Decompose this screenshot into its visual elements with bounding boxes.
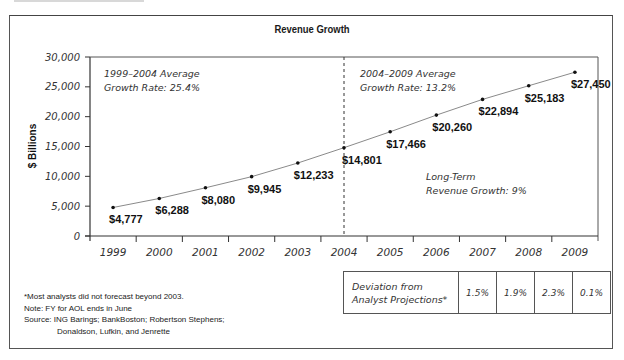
data-value-label: $17,466 [386,138,426,150]
period1-annotation-line1: 1999–2004 Average [104,68,200,79]
fiscal-year-note: Note: FY for AOL ends in June [24,303,225,315]
period1-annotation-line2: Growth Rate: 25.4% [104,82,200,93]
data-point [573,70,577,74]
y-tick-label: 20,000 [45,111,80,122]
deviation-row: Deviation from Analyst Projections* 1.5%… [344,272,611,314]
deviation-label: Deviation from Analyst Projections* [344,272,459,314]
data-point [481,98,485,102]
x-tick-label: 2009 [562,246,589,258]
footnote: *Most analysts did not forecast beyond 2… [24,291,225,303]
y-tick-label: 5,000 [51,201,80,212]
y-tick-label: 15,000 [45,141,80,152]
y-tick-label: 30,000 [45,52,80,63]
deviation-value: 1.9% [497,272,535,314]
data-point [204,186,208,190]
x-tick-label: 1999 [100,246,127,258]
data-point [435,113,439,117]
data-point [527,84,531,88]
period2-annotation-line1: 2004–2009 Average [360,68,456,79]
x-tick-labels: 1999200020012002200320042005200620072008… [100,236,589,258]
data-point [342,146,346,150]
period2-annotation-line2: Growth Rate: 13.2% [360,82,456,93]
source-line-1: Source: ING Barings; BankBoston; Roberts… [24,314,225,326]
deviation-label-line1: Deviation from [352,281,423,292]
data-point [250,175,254,179]
data-value-label: $6,288 [155,204,189,216]
deviation-value: 0.1% [573,272,611,314]
deviation-label-line2: Analyst Projections* [352,294,447,305]
deviation-value: 2.3% [535,272,573,314]
x-tick-label: 2005 [377,246,404,258]
longterm-annotation-line2: Revenue Growth: 9% [426,185,527,196]
longterm-annotation-line1: Long-Term [426,171,476,182]
data-value-label: $4,777 [109,213,143,225]
data-value-label: $14,801 [342,154,382,166]
data-value-label: $9,945 [248,183,282,195]
data-value-label: $20,260 [432,121,472,133]
data-value-label: $27,450 [571,78,611,90]
data-value-label: $8,080 [201,194,235,206]
data-point [111,206,115,210]
x-tick-label: 2001 [192,246,219,258]
deviation-table: Deviation from Analyst Projections* 1.5%… [343,271,611,314]
x-tick-label: 2002 [238,246,265,258]
y-tick-label: 0 [74,231,80,242]
data-value-label: $22,894 [479,105,520,117]
data-point [388,130,392,134]
source-line-2: Donaldson, Lufkin, and Jenrette [24,326,225,338]
data-value-label: $25,183 [525,92,565,104]
data-value-label: $12,233 [294,169,334,181]
y-axis-title: $ Billions [27,123,38,168]
x-tick-label: 2008 [515,246,542,258]
deviation-value: 1.5% [459,272,497,314]
data-point [157,197,161,201]
x-tick-label: 2004 [331,246,358,258]
x-tick-label: 2000 [146,246,173,258]
x-tick-label: 2006 [423,246,450,258]
x-tick-label: 2003 [284,246,311,258]
chart-notes: *Most analysts did not forecast beyond 2… [24,291,225,337]
y-tick-label: 25,000 [45,81,80,92]
data-labels: $4,777$6,288$8,080$9,945$12,233$14,801$1… [109,78,611,225]
data-point [296,161,300,165]
x-tick-label: 2007 [469,246,496,258]
y-tick-label: 10,000 [45,171,80,182]
y-tick-labels: 05,00010,00015,00020,00025,00030,000 [45,52,90,242]
